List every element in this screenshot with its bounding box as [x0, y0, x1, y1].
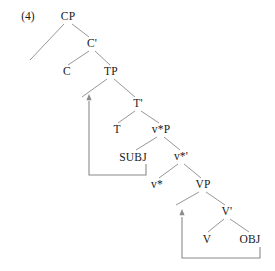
tree-node-tbar: T' [133, 98, 143, 110]
tree-node-subj: SUBJ [119, 152, 147, 164]
branch-line [206, 192, 225, 205]
movement-arrow-path [89, 101, 146, 175]
branch-line [30, 24, 64, 60]
branch-line [136, 137, 157, 150]
example-number: (4) [21, 11, 34, 23]
branch-line [208, 219, 224, 232]
branch-line [82, 79, 107, 97]
tree-node-cp: CP [61, 11, 75, 23]
syntax-tree-figure: (4) CPC'CTPT'Tv*PSUBJv*'v*VPV'VOBJ [0, 0, 275, 271]
tree-node-vbar: V' [222, 206, 233, 218]
tree-branches-and-arrows [0, 0, 275, 271]
tree-node-obj: OBJ [239, 234, 260, 246]
tree-node-v: V [203, 234, 212, 246]
branch-line [159, 164, 178, 178]
branch-line [72, 24, 89, 37]
tree-node-vp: VP [195, 179, 210, 191]
tree-node-vp: v*P [152, 124, 171, 136]
movement-arrows [86, 94, 260, 258]
tree-node-vbar: v*' [174, 151, 188, 163]
branch-line [184, 164, 201, 178]
tree-node-c: C [63, 66, 71, 78]
branch-lines [30, 24, 249, 232]
branch-line [176, 192, 199, 205]
movement-arrowhead-icon [86, 94, 91, 100]
branch-line [68, 51, 89, 65]
branch-line [95, 51, 110, 65]
branch-line [114, 79, 135, 97]
branch-line [141, 111, 159, 123]
branch-line [230, 219, 249, 232]
tree-node-tp: TP [104, 66, 118, 78]
tree-node-cbar: C' [87, 38, 97, 50]
tree-node-t: T [113, 124, 120, 136]
tree-node-v: v* [151, 179, 163, 191]
branch-line [164, 137, 180, 150]
movement-arrowhead-icon [179, 209, 184, 215]
branch-line [118, 111, 135, 123]
